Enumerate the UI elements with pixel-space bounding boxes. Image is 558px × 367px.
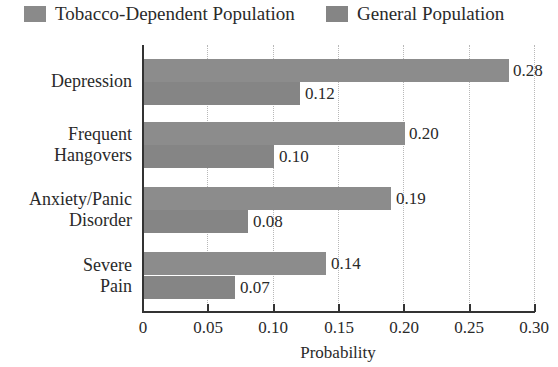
x-tick bbox=[534, 304, 536, 312]
legend-label: General Population bbox=[357, 3, 504, 25]
gridline bbox=[403, 45, 404, 311]
bar-general-hangovers bbox=[143, 145, 274, 168]
value-label: 0.19 bbox=[396, 187, 426, 210]
gridline bbox=[469, 45, 470, 311]
gridline bbox=[534, 45, 535, 311]
value-label: 0.20 bbox=[409, 122, 439, 145]
bar-general-depression bbox=[143, 82, 300, 105]
legend-swatch-tobacco bbox=[24, 6, 46, 22]
legend-swatch-general bbox=[326, 6, 348, 22]
bar-tobacco-pain bbox=[143, 252, 326, 275]
legend-label: Tobacco-Dependent Population bbox=[55, 3, 295, 25]
category-label: Depression bbox=[51, 71, 132, 92]
bar-tobacco-depression bbox=[143, 59, 509, 82]
bar-tobacco-hangovers bbox=[143, 122, 405, 145]
x-tick bbox=[403, 304, 405, 312]
y-axis bbox=[142, 45, 144, 313]
value-label: 0.10 bbox=[279, 145, 309, 168]
value-label: 0.12 bbox=[305, 82, 335, 105]
value-label: 0.07 bbox=[240, 276, 270, 299]
x-tick bbox=[207, 304, 209, 312]
category-label: Severe Pain bbox=[83, 255, 132, 297]
bar-general-anxiety bbox=[143, 210, 248, 233]
x-tick bbox=[469, 304, 471, 312]
x-tick bbox=[338, 304, 340, 312]
category-label: Anxiety/Panic Disorder bbox=[29, 189, 132, 231]
x-tick-label: 0.10 bbox=[258, 318, 288, 338]
x-axis-title: Probability bbox=[300, 343, 376, 363]
value-label: 0.08 bbox=[253, 210, 283, 233]
x-tick-label: 0.30 bbox=[519, 318, 549, 338]
legend-item-general: General Population bbox=[326, 3, 504, 25]
chart: Tobacco-Dependent Population General Pop… bbox=[0, 0, 558, 367]
x-tick-label: 0 bbox=[139, 318, 148, 338]
value-label: 0.28 bbox=[513, 59, 543, 82]
x-tick-label: 0.05 bbox=[193, 318, 223, 338]
value-label: 0.14 bbox=[331, 252, 361, 275]
x-tick-label: 0.20 bbox=[389, 318, 419, 338]
x-tick bbox=[273, 304, 275, 312]
x-tick-label: 0.25 bbox=[454, 318, 484, 338]
x-tick-label: 0.15 bbox=[324, 318, 354, 338]
legend-item-tobacco: Tobacco-Dependent Population bbox=[24, 3, 295, 25]
category-label: Frequent Hangovers bbox=[54, 124, 132, 166]
bar-tobacco-anxiety bbox=[143, 187, 391, 210]
bar-general-pain bbox=[143, 276, 235, 299]
